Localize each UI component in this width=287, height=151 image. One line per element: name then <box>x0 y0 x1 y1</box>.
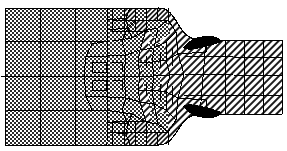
fe-mesh-figure <box>0 0 287 151</box>
mesh-canvas <box>0 0 287 151</box>
